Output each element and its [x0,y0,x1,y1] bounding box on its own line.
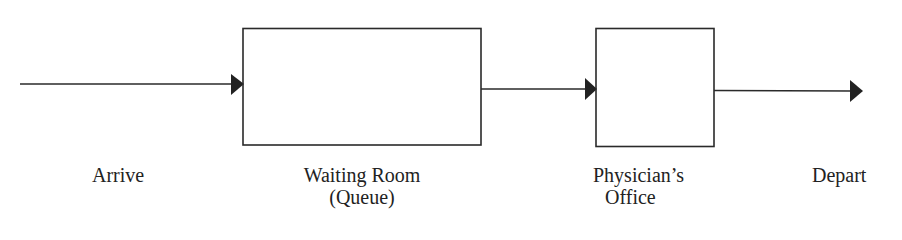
queue-text: (Queue) [272,186,452,208]
depart-arrow [714,80,863,102]
arrive-text: Arrive [92,164,144,186]
depart-text: Depart [812,164,866,186]
arrowhead-icon [850,80,863,102]
physicians-office-box [596,29,714,147]
arrive-arrow [20,74,244,95]
waiting-room-text: Waiting Room [272,164,452,186]
physicians-text: Physician’s [593,164,684,186]
depart-label: Depart [812,164,866,186]
waiting-room-box [243,29,481,146]
arrive-label: Arrive [92,164,144,186]
waiting-room-label: Waiting Room (Queue) [272,164,452,208]
office-text: Office [593,186,684,208]
arrowhead-icon [231,74,244,95]
queue-to-office-arrow [481,78,597,100]
physicians-office-label: Physician’s Office [593,164,684,208]
